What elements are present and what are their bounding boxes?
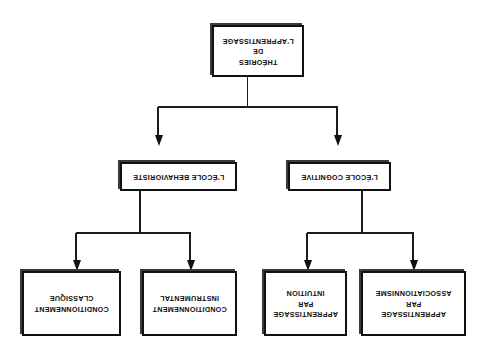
connector-riser-ecole-cognitive: [336, 107, 338, 135]
node-label: L'ÉCOLE COGNITIVE: [301, 171, 378, 181]
connector-riser-conditionnement-classique: [75, 233, 77, 260]
node-label: APPRENTISSAGE PAR INTUITION: [273, 288, 338, 319]
node-ecole-cognitive[interactable]: L'ÉCOLE COGNITIVE: [288, 162, 391, 191]
node-conditionnement-classique[interactable]: CONDITIONNEMENT CLASSIQUE: [22, 271, 121, 336]
connector-split-bar-ecole-cognitive: [307, 232, 414, 234]
node-label: CONDITIONNEMENT CLASSIQUE: [34, 293, 108, 314]
connector-riser-associationnisme: [412, 233, 414, 260]
node-label: APPRENTISSAGE PAR ASSOCIATIONNISME: [375, 288, 451, 319]
connector-split-bar-ecole-behavioriste: [76, 232, 191, 234]
connector-riser-intuition: [306, 233, 308, 260]
node-conditionnement-instrumental[interactable]: CONDITIONNEMENT INSTRUMENTAL: [142, 271, 237, 336]
node-label: CONDITIONNEMENT INSTRUMENTAL: [152, 293, 226, 314]
node-apprentissage-par-associationnisme[interactable]: APPRENTISSAGE PAR ASSOCIATIONNISME: [361, 271, 466, 336]
node-apprentissage-par-intuition[interactable]: APPRENTISSAGE PAR INTUITION: [264, 271, 347, 336]
arrow-to-conditionnement-instrumental: [187, 260, 195, 271]
connector-stem-ecole-cognitive: [361, 191, 363, 233]
connector-riser-ecole-behavioriste: [157, 107, 159, 135]
node-label: THÉORIES DE L'APPRENTISSAGE: [222, 35, 293, 66]
arrow-to-ecole-cognitive: [334, 135, 342, 146]
connector-riser-conditionnement-instrumental: [189, 233, 191, 260]
arrow-to-intuition: [304, 260, 312, 271]
arrow-to-associationnisme: [410, 260, 418, 271]
connector-root-split-bar: [158, 106, 338, 108]
learning-theories-tree: APPRENTISSAGE PAR ASSOCIATIONNISME APPRE…: [0, 0, 493, 350]
node-theories-de-l-apprentissage[interactable]: THÉORIES DE L'APPRENTISSAGE: [212, 25, 304, 77]
connector-root-stem: [247, 77, 249, 107]
diagram-canvas: APPRENTISSAGE PAR ASSOCIATIONNISME APPRE…: [0, 0, 493, 350]
node-ecole-behavioriste[interactable]: L'ÉCOLE BEHAVIORISTE: [120, 162, 237, 191]
arrow-to-conditionnement-classique: [73, 260, 81, 271]
node-label: L'ÉCOLE BEHAVIORISTE: [133, 171, 224, 181]
connector-stem-ecole-behavioriste: [139, 191, 141, 233]
arrow-to-ecole-behavioriste: [155, 135, 163, 146]
